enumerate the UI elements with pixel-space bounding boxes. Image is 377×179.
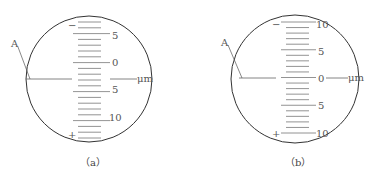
- scale-label: 5: [318, 46, 324, 57]
- pointer-label: A: [220, 37, 229, 48]
- scale-ticks: [73, 22, 110, 138]
- scale-label: 0: [318, 73, 324, 84]
- scale-label: 5: [318, 100, 324, 111]
- scale-label: 5: [112, 30, 118, 41]
- minus-sign: −: [272, 19, 280, 30]
- field-of-view-circle: [231, 15, 359, 143]
- scale-label: 5: [112, 84, 118, 95]
- scale-label: 10: [316, 128, 329, 139]
- pointer-leader: [228, 45, 242, 78]
- plus-sign: +: [272, 128, 280, 139]
- caption: （b）: [285, 157, 311, 168]
- caption: （a）: [80, 157, 106, 168]
- figure-a: A μm − + 5 0 5 10 （a）: [10, 16, 153, 168]
- scale-label: 10: [316, 19, 329, 30]
- interferometer-diagrams: A μm − + 5 0 5 10 （a） A μm − + 10 5 0 5 …: [0, 0, 377, 179]
- unit-label: μm: [137, 73, 153, 84]
- scale-label: 10: [109, 112, 122, 123]
- figure-b: A μm − + 10 5 0 5 10 （b）: [220, 15, 364, 168]
- plus-sign: +: [68, 129, 76, 140]
- scale-ticks: [281, 22, 316, 133]
- pointer-label: A: [10, 38, 19, 49]
- minus-sign: −: [68, 20, 76, 31]
- unit-label: μm: [348, 72, 364, 83]
- scale-label: 0: [112, 57, 118, 68]
